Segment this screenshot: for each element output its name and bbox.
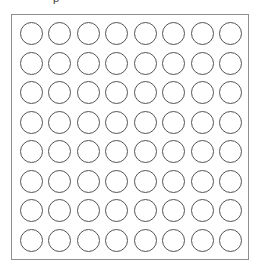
pad-cell[interactable]: [160, 196, 189, 226]
pad-cell[interactable]: [160, 167, 189, 197]
pad-circle-icon: [162, 170, 185, 193]
pad-cell[interactable]: [217, 49, 246, 79]
pad-circle-icon: [20, 229, 43, 252]
pad-cell[interactable]: [17, 196, 46, 226]
pad-cell[interactable]: [103, 226, 132, 256]
pad-cell[interactable]: [46, 78, 75, 108]
pad-circle-icon: [191, 170, 214, 193]
pad-cell[interactable]: [17, 167, 46, 197]
pad-circle-icon: [219, 22, 242, 45]
pad-cell[interactable]: [17, 78, 46, 108]
pad-circle-icon: [134, 170, 157, 193]
pad-circle-icon: [191, 111, 214, 134]
pad-cell[interactable]: [17, 19, 46, 49]
pad-cell[interactable]: [17, 137, 46, 167]
pad-circle-icon: [219, 199, 242, 222]
pad-cell[interactable]: [46, 167, 75, 197]
pad-cell[interactable]: [74, 137, 103, 167]
pad-circle-icon: [105, 111, 128, 134]
pad-circle-icon: [134, 52, 157, 75]
pad-circle-icon: [219, 52, 242, 75]
pad-cell[interactable]: [131, 78, 160, 108]
pad-cell[interactable]: [131, 49, 160, 79]
pad-cell[interactable]: [103, 108, 132, 138]
pad-cell[interactable]: [160, 226, 189, 256]
pad-circle-icon: [48, 229, 71, 252]
pad-cell[interactable]: [17, 226, 46, 256]
pad-cell[interactable]: [188, 226, 217, 256]
pad-cell[interactable]: [188, 137, 217, 167]
pad-circle-icon: [191, 199, 214, 222]
pad-cell[interactable]: [131, 137, 160, 167]
pad-cell[interactable]: [160, 49, 189, 79]
pad-cell[interactable]: [160, 137, 189, 167]
pad-circle-icon: [191, 22, 214, 45]
pad-cell[interactable]: [188, 108, 217, 138]
pad-cell[interactable]: [103, 196, 132, 226]
pad-cell[interactable]: [131, 226, 160, 256]
pad-cell[interactable]: [46, 49, 75, 79]
pad-cell[interactable]: [74, 196, 103, 226]
pad-circle-icon: [219, 170, 242, 193]
pad-cell[interactable]: [74, 19, 103, 49]
clipped-text-artifact: p: [53, 0, 62, 4]
pad-circle-icon: [191, 140, 214, 163]
pad-circle-icon: [162, 52, 185, 75]
pad-circle-icon: [134, 199, 157, 222]
pad-cell[interactable]: [217, 167, 246, 197]
pad-cell[interactable]: [131, 167, 160, 197]
pad-cell[interactable]: [217, 19, 246, 49]
pad-circle-icon: [134, 22, 157, 45]
pad-grid: [12, 15, 248, 259]
pad-cell[interactable]: [160, 78, 189, 108]
pad-cell[interactable]: [217, 108, 246, 138]
pad-cell[interactable]: [46, 196, 75, 226]
pad-cell[interactable]: [74, 226, 103, 256]
pad-cell[interactable]: [217, 196, 246, 226]
pad-circle-icon: [105, 229, 128, 252]
pad-cell[interactable]: [188, 49, 217, 79]
pad-circle-icon: [77, 81, 100, 104]
pad-circle-icon: [162, 111, 185, 134]
pad-cell[interactable]: [103, 19, 132, 49]
pad-cell[interactable]: [188, 196, 217, 226]
pad-circle-icon: [134, 81, 157, 104]
package-outline: [11, 14, 249, 260]
pad-circle-icon: [48, 52, 71, 75]
pad-circle-icon: [105, 199, 128, 222]
pad-cell[interactable]: [160, 108, 189, 138]
pad-cell[interactable]: [46, 137, 75, 167]
pad-circle-icon: [20, 111, 43, 134]
pad-cell[interactable]: [188, 78, 217, 108]
pad-cell[interactable]: [74, 167, 103, 197]
pad-cell[interactable]: [131, 108, 160, 138]
pad-cell[interactable]: [103, 49, 132, 79]
pad-cell[interactable]: [131, 19, 160, 49]
pad-circle-icon: [219, 229, 242, 252]
pad-cell[interactable]: [46, 108, 75, 138]
pad-cell[interactable]: [217, 78, 246, 108]
pad-cell[interactable]: [160, 19, 189, 49]
pad-cell[interactable]: [131, 196, 160, 226]
pad-circle-icon: [77, 22, 100, 45]
pad-circle-icon: [48, 170, 71, 193]
pad-cell[interactable]: [74, 49, 103, 79]
pad-cell[interactable]: [74, 108, 103, 138]
pad-cell[interactable]: [188, 19, 217, 49]
pad-cell[interactable]: [17, 49, 46, 79]
pad-circle-icon: [162, 140, 185, 163]
pad-cell[interactable]: [103, 78, 132, 108]
pad-cell[interactable]: [103, 137, 132, 167]
pad-circle-icon: [77, 199, 100, 222]
pad-cell[interactable]: [103, 167, 132, 197]
pad-cell[interactable]: [74, 78, 103, 108]
pad-cell[interactable]: [46, 19, 75, 49]
pad-cell[interactable]: [217, 137, 246, 167]
pad-cell[interactable]: [217, 226, 246, 256]
pad-circle-icon: [219, 111, 242, 134]
pad-cell[interactable]: [46, 226, 75, 256]
pad-cell[interactable]: [188, 167, 217, 197]
pad-circle-icon: [134, 229, 157, 252]
pad-circle-icon: [77, 140, 100, 163]
pad-cell[interactable]: [17, 108, 46, 138]
